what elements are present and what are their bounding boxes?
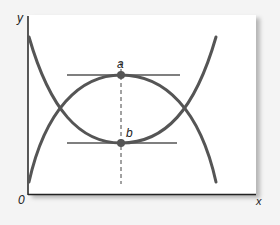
inverted-u-curve	[29, 75, 216, 182]
u-curve	[29, 37, 216, 143]
y-axis-label: y	[16, 11, 24, 25]
point-a	[117, 71, 125, 79]
diagram-svg: a b y 0 x	[0, 0, 280, 225]
point-a-label: a	[117, 57, 124, 71]
point-b-label: b	[126, 126, 133, 140]
point-b	[117, 139, 125, 147]
origin-label: 0	[18, 193, 25, 207]
x-axis-label: x	[255, 195, 262, 207]
